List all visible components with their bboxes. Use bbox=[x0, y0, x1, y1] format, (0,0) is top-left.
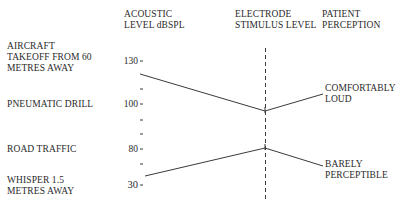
axis-ticks bbox=[140, 61, 143, 185]
lower-mapping-line bbox=[145, 148, 323, 176]
upper-mapping-line bbox=[140, 74, 323, 111]
mapping-diagram bbox=[0, 0, 399, 207]
